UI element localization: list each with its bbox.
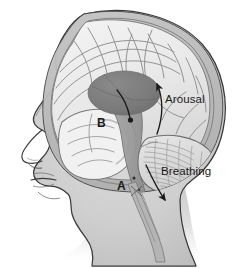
label-breathing: Breathing bbox=[161, 166, 211, 178]
figure-canvas: Arousal Breathing A B bbox=[0, 0, 249, 268]
label-marker-b: B bbox=[97, 117, 106, 129]
thalamus-oval bbox=[88, 71, 160, 115]
brain-anatomy-illustration bbox=[0, 0, 249, 268]
label-arousal: Arousal bbox=[165, 94, 205, 106]
label-marker-a: A bbox=[117, 180, 126, 192]
